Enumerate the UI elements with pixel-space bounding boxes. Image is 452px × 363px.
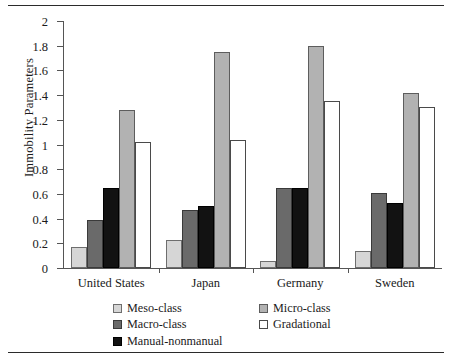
bottom-rule bbox=[8, 352, 444, 353]
bar bbox=[198, 206, 214, 268]
legend-item: Macro-class bbox=[113, 317, 241, 334]
legend-swatch-icon bbox=[259, 304, 268, 313]
bar bbox=[419, 107, 435, 268]
y-tick: 0.8 bbox=[57, 169, 64, 170]
y-tick: 1.8 bbox=[57, 46, 64, 47]
legend-swatch-icon bbox=[113, 337, 122, 346]
legend-swatch-icon bbox=[113, 320, 122, 329]
x-axis-group-label: Sweden bbox=[315, 276, 452, 291]
bar bbox=[324, 101, 340, 268]
bar-group: Germany bbox=[253, 21, 348, 268]
y-tick-label: 1 bbox=[42, 139, 48, 152]
y-tick: 2 bbox=[57, 21, 64, 22]
legend-label: Macro-class bbox=[127, 317, 187, 332]
y-tick-label: 0.6 bbox=[32, 189, 48, 202]
y-tick-label: 2 bbox=[42, 16, 48, 29]
y-tick: 0.6 bbox=[57, 194, 64, 195]
bar-group-bars bbox=[260, 21, 340, 268]
y-tick: 1 bbox=[57, 145, 64, 146]
bar bbox=[260, 261, 276, 268]
bar bbox=[135, 142, 151, 268]
legend-label: Gradational bbox=[273, 317, 331, 332]
bar bbox=[71, 247, 87, 268]
y-tick-label: 0.4 bbox=[32, 213, 48, 226]
x-axis-tick bbox=[348, 268, 349, 273]
figure: Immobility Parameters 00.20.40.60.811.21… bbox=[0, 0, 452, 363]
legend-label: Manual-nonmanual bbox=[127, 334, 222, 349]
bar bbox=[103, 188, 119, 268]
bar-group-bars bbox=[355, 21, 435, 268]
y-tick: 0.4 bbox=[57, 219, 64, 220]
y-tick-label: 0.8 bbox=[32, 164, 48, 177]
bar bbox=[308, 46, 324, 268]
plot-area: 00.20.40.60.811.21.41.61.82 United State… bbox=[64, 21, 442, 268]
y-tick: 0 bbox=[57, 268, 64, 269]
legend-item: Manual-nonmanual bbox=[113, 333, 241, 350]
x-axis-tick bbox=[253, 268, 254, 273]
legend-label: Meso-class bbox=[127, 301, 182, 316]
y-tick-label: 0.2 bbox=[32, 238, 48, 251]
bar bbox=[387, 203, 403, 268]
top-rule bbox=[8, 5, 444, 6]
legend-item: Micro-class bbox=[259, 300, 387, 317]
bar-group: United States bbox=[64, 21, 159, 268]
y-tick-label: 0 bbox=[42, 263, 48, 276]
bar-group: Sweden bbox=[348, 21, 443, 268]
bar bbox=[166, 240, 182, 268]
bar bbox=[371, 193, 387, 268]
y-tick-label: 1.2 bbox=[32, 115, 48, 128]
bar bbox=[119, 110, 135, 268]
y-tick: 1.4 bbox=[57, 95, 64, 96]
bar bbox=[292, 188, 308, 268]
bar bbox=[355, 251, 371, 268]
bar bbox=[182, 210, 198, 268]
legend-swatch-icon bbox=[113, 304, 122, 313]
bar-group-bars bbox=[71, 21, 151, 268]
y-tick: 0.2 bbox=[57, 243, 64, 244]
bar bbox=[276, 188, 292, 268]
bar bbox=[403, 93, 419, 268]
legend-label: Micro-class bbox=[273, 301, 331, 316]
y-tick-label: 1.8 bbox=[32, 40, 48, 53]
y-tick-label: 1.4 bbox=[32, 90, 48, 103]
legend-swatch-icon bbox=[259, 320, 268, 329]
bar-group-bars bbox=[166, 21, 246, 268]
x-axis-tick bbox=[159, 268, 160, 273]
y-tick-label: 1.6 bbox=[32, 65, 48, 78]
bar bbox=[87, 220, 103, 268]
legend-item: Meso-class bbox=[113, 300, 241, 317]
legend-item: Gradational bbox=[259, 317, 387, 334]
legend: Meso-classMicro-classMacro-classGradatio… bbox=[113, 300, 413, 350]
y-tick: 1.2 bbox=[57, 120, 64, 121]
bar bbox=[230, 140, 246, 268]
bar-group: Japan bbox=[159, 21, 254, 268]
y-tick: 1.6 bbox=[57, 70, 64, 71]
bar bbox=[214, 52, 230, 268]
